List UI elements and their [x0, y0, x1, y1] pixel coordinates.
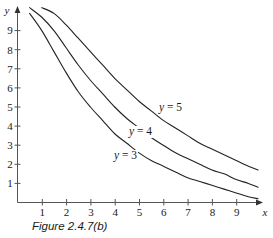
y-tick-label: 6 — [7, 82, 13, 94]
y-tick-label: 2 — [7, 158, 13, 170]
curve-label-value: = 5 — [164, 101, 182, 113]
plot-area: 1 2 3 4 5 6 7 8 9 1 2 3 4 5 6 7 8 9 y x — [0, 0, 273, 238]
x-tick-label: 7 — [185, 206, 191, 218]
x-tick-label: 2 — [64, 206, 70, 218]
curve-label-y-5: y = 5 — [158, 102, 183, 114]
x-axis-arrow-icon — [256, 200, 263, 206]
x-tick-label: 9 — [234, 206, 240, 218]
curve-y-equals-4 — [30, 8, 258, 188]
y-tick-label: 8 — [7, 44, 13, 56]
x-axis-label: x — [262, 206, 268, 218]
y-tick-label: 5 — [7, 101, 13, 113]
curve-label-value: = 3 — [119, 149, 137, 161]
curve-y-equals-3 — [30, 13, 258, 198]
figure-caption: Figure 2.4.7(b) — [32, 220, 107, 232]
curve-label-value: = 4 — [134, 125, 152, 137]
curve-y-equals-5 — [42, 8, 258, 170]
x-tick-label: 8 — [210, 206, 216, 218]
figure-container: 1 2 3 4 5 6 7 8 9 1 2 3 4 5 6 7 8 9 y x … — [0, 0, 273, 238]
y-tick-label: 7 — [7, 63, 13, 75]
y-tick-label: 3 — [7, 139, 13, 151]
y-tick-label: 1 — [7, 177, 13, 189]
curve-label-y-3: y = 3 — [113, 150, 138, 162]
x-tick-label: 3 — [88, 206, 94, 218]
x-tick-label: 6 — [161, 206, 167, 218]
x-tick-label: 5 — [137, 206, 143, 218]
y-tick-label: 9 — [7, 24, 13, 36]
y-axis-label: y — [4, 4, 10, 16]
y-tick-label: 4 — [7, 120, 13, 132]
curve-label-y-4: y = 4 — [128, 126, 153, 138]
x-tick-label: 4 — [112, 206, 118, 218]
x-tick-label: 1 — [40, 206, 46, 218]
y-axis-arrow-icon — [15, 6, 21, 13]
